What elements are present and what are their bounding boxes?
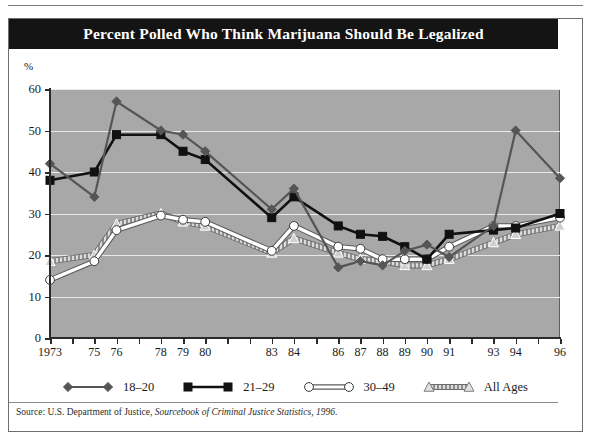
x-tick-mark-1991	[449, 339, 451, 344]
x-tick-label-91: 91	[443, 345, 455, 360]
page-title: Percent Polled Who Think Marijuana Shoul…	[83, 25, 484, 43]
legend-label: 30–49	[364, 380, 395, 395]
legend-symbol-triangle-icon	[421, 380, 477, 394]
y-tick-label-20: 20	[29, 248, 42, 263]
y-tick-label-40: 40	[29, 165, 42, 180]
legend-symbol-square-icon	[180, 380, 236, 394]
x-tick-mark-1985	[316, 339, 318, 344]
source-prefix: Source: U.S. Department of Justice,	[16, 407, 155, 417]
x-tick-mark-1980	[205, 339, 207, 344]
legend-label: All Ages	[484, 380, 528, 395]
x-tick-label-96: 96	[554, 345, 566, 360]
source-note: Source: U.S. Department of Justice, Sour…	[16, 407, 556, 417]
x-tick-mark-1982	[250, 339, 252, 344]
legend-symbol-diamond-icon	[60, 380, 116, 394]
x-tick-mark-1981	[227, 339, 229, 344]
x-tick-mark-1987	[360, 339, 362, 344]
x-tick-mark-1978	[161, 339, 163, 344]
legend-item-all-ages[interactable]: All Ages	[421, 380, 528, 395]
x-tick-mark-1984	[294, 339, 296, 344]
x-tick-label-76: 76	[111, 345, 123, 360]
x-tick-mark-1996	[560, 339, 562, 344]
figure-page: Percent Polled Who Think Marijuana Shoul…	[0, 0, 591, 438]
x-tick-label-78: 78	[155, 345, 167, 360]
x-axis-line	[49, 337, 561, 339]
source-suffix: .	[335, 407, 337, 417]
top-divider	[8, 5, 583, 6]
x-tick-mark-1973	[50, 339, 52, 344]
x-tick-label-93: 93	[487, 345, 499, 360]
x-tick-mark-1977	[139, 339, 141, 344]
x-tick-label-1973: 1973	[38, 345, 62, 360]
legend-item-18-20[interactable]: 18–20	[60, 380, 154, 395]
x-tick-mark-1993	[493, 339, 495, 344]
x-tick-mark-1974	[72, 339, 74, 344]
x-tick-mark-1992	[471, 339, 473, 344]
x-tick-label-94: 94	[510, 345, 522, 360]
x-tick-label-84: 84	[288, 345, 300, 360]
x-tick-label-89: 89	[399, 345, 411, 360]
x-tick-mark-1989	[405, 339, 407, 344]
source-title: Sourcebook of Criminal Justice Statistic…	[155, 407, 335, 417]
y-tick-label-50: 50	[29, 123, 42, 138]
legend-label: 21–29	[243, 380, 274, 395]
x-tick-label-90: 90	[421, 345, 433, 360]
y-axis-line	[49, 88, 51, 339]
x-tick-label-86: 86	[332, 345, 344, 360]
x-tick-mark-1990	[427, 339, 429, 344]
series-layer	[50, 89, 560, 338]
source-divider	[9, 402, 558, 403]
legend-label: 18–20	[123, 380, 154, 395]
chart-legend: 18–2021–2930–49All Ages	[60, 377, 530, 397]
y-axis-ticks: 0102030405060	[0, 0, 50, 438]
x-tick-label-87: 87	[354, 345, 366, 360]
y-tick-label-10: 10	[29, 289, 42, 304]
x-tick-label-75: 75	[88, 345, 100, 360]
chart-title-bar: Percent Polled Who Think Marijuana Shoul…	[9, 19, 558, 49]
x-tick-label-88: 88	[377, 345, 389, 360]
x-tick-mark-1975	[94, 339, 96, 344]
legend-item-30-49[interactable]: 30–49	[301, 380, 395, 395]
x-tick-mark-1994	[516, 339, 518, 344]
x-tick-mark-1995	[538, 339, 540, 344]
legend-item-21-29[interactable]: 21–29	[180, 380, 274, 395]
plot-area	[50, 89, 560, 338]
x-tick-mark-1979	[183, 339, 185, 344]
x-tick-label-83: 83	[266, 345, 278, 360]
y-tick-label-60: 60	[29, 82, 42, 97]
y-tick-label-30: 30	[29, 206, 42, 221]
legend-symbol-circle-icon	[301, 380, 357, 394]
x-tick-mark-1983	[272, 339, 274, 344]
x-tick-mark-1988	[383, 339, 385, 344]
x-tick-mark-1976	[117, 339, 119, 344]
y-tick-label-0: 0	[35, 331, 41, 346]
x-tick-label-80: 80	[199, 345, 211, 360]
x-tick-label-79: 79	[177, 345, 189, 360]
x-tick-mark-1986	[338, 339, 340, 344]
series-all-ages	[45, 209, 565, 270]
